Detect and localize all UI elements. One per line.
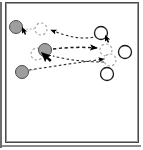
pointer-cursor-icon-p1[interactable] <box>22 27 27 35</box>
ghost-marker-g1[interactable] <box>35 23 47 35</box>
pointer-cursor-icon-p3[interactable] <box>105 35 110 43</box>
destination-marker-d3[interactable] <box>101 68 114 81</box>
ghost-marker-g4[interactable] <box>104 54 116 66</box>
source-marker-s1[interactable] <box>10 21 23 34</box>
connector-g4-to-s2 <box>53 56 104 62</box>
diagram-canvas: multi-agent tracking diagram <box>0 0 143 150</box>
figure-root: multi-agent tracking diagram <box>0 0 143 150</box>
connector-s2-to-g3 <box>53 47 97 49</box>
diagram-stage: multi-agent tracking diagram <box>0 0 143 150</box>
connector-d1-to-g1 <box>51 30 98 38</box>
source-marker-s3[interactable] <box>16 66 29 79</box>
destination-marker-d2[interactable] <box>119 46 132 59</box>
connector-s3-to-g4 <box>29 59 104 70</box>
destination-marker-group <box>95 27 132 81</box>
